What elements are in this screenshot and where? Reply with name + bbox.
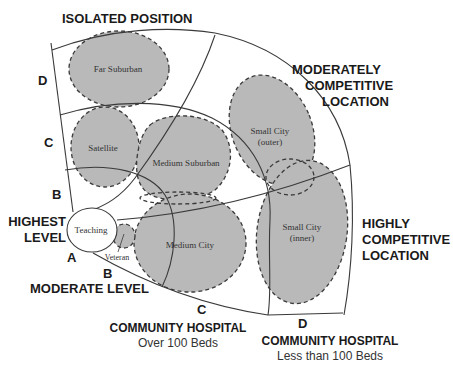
highly-line-3: LOCATION bbox=[362, 248, 450, 264]
hospital-positioning-diagram: Far Suburban Satellite Medium Suburban S… bbox=[0, 0, 453, 373]
community-under-title: COMMUNITY HOSPITAL bbox=[255, 333, 405, 349]
label-medium-city: Medium City bbox=[166, 240, 215, 250]
moderately-line-3: LOCATION bbox=[290, 94, 410, 110]
label-veteran: Veteran bbox=[105, 253, 129, 262]
isolated-position-label: ISOLATED POSITION bbox=[62, 11, 193, 27]
moderately-competitive-label: MODERATELY COMPETITIVE LOCATION bbox=[290, 62, 410, 110]
label-small-city-inner-2: (inner) bbox=[290, 233, 315, 243]
moderate-level-label: MODERATE LEVEL bbox=[30, 281, 149, 297]
label-satellite: Satellite bbox=[88, 143, 118, 153]
highly-line-2: COMPETITIVE bbox=[362, 232, 450, 248]
highest-line-2: LEVEL bbox=[8, 230, 66, 246]
community-over-title: COMMUNITY HOSPITAL bbox=[108, 320, 248, 336]
highest-level-label: HIGHEST LEVEL bbox=[8, 214, 66, 246]
label-small-city-outer-2: (outer) bbox=[258, 137, 283, 147]
highest-line-1: HIGHEST bbox=[8, 214, 66, 230]
highly-competitive-label: HIGHLY COMPETITIVE LOCATION bbox=[362, 216, 450, 264]
community-under-subtitle: Less than 100 Beds bbox=[255, 349, 405, 363]
label-teaching: Teaching bbox=[75, 225, 108, 235]
level-letter-c-left: C bbox=[44, 135, 53, 151]
label-medium-suburban: Medium Suburban bbox=[152, 158, 220, 168]
community-under-100-label: COMMUNITY HOSPITAL Less than 100 Beds bbox=[255, 333, 405, 363]
moderately-line-1: MODERATELY bbox=[290, 62, 410, 78]
level-letter-b-left: B bbox=[52, 187, 61, 203]
level-letter-a: A bbox=[67, 250, 76, 266]
level-letter-d-left: D bbox=[38, 73, 47, 89]
community-over-subtitle: Over 100 Beds bbox=[108, 336, 248, 350]
label-small-city-inner-1: Small City bbox=[283, 222, 322, 232]
community-over-100-label: COMMUNITY HOSPITAL Over 100 Beds bbox=[108, 320, 248, 350]
level-letter-c-bottom: C bbox=[197, 302, 206, 318]
moderately-line-2: COMPETITIVE bbox=[290, 78, 410, 94]
label-small-city-outer-1: Small City bbox=[251, 126, 290, 136]
level-letter-d-bottom: D bbox=[298, 316, 307, 332]
level-letter-b-bottom: B bbox=[103, 266, 112, 282]
label-far-suburban: Far Suburban bbox=[94, 64, 143, 74]
highly-line-1: HIGHLY bbox=[362, 216, 450, 232]
